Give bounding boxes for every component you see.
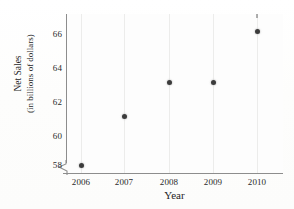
- scan-speck: [256, 14, 258, 18]
- x-tick-label-2010: 2010: [237, 177, 277, 187]
- gridline-2007: [124, 14, 125, 173]
- net-sales-scatter-chart: 66 64 62 60 58 2006 2007 2008 2009 2010 …: [0, 0, 294, 209]
- y-tick-label-58: 58: [40, 161, 62, 170]
- plot-area: [66, 14, 283, 173]
- data-point-2007: [122, 114, 127, 119]
- x-tick-label-2006: 2006: [61, 177, 101, 187]
- y-axis-line: [66, 14, 67, 163]
- y-axis-title-line1: Net Sales: [13, 9, 25, 139]
- data-point-2006: [79, 163, 84, 168]
- gridline-2010: [257, 14, 258, 173]
- x-tick-label-2009: 2009: [193, 177, 233, 187]
- y-tick-label-60: 60: [40, 132, 62, 141]
- y-tick-label-64: 64: [40, 64, 62, 73]
- data-point-2008: [167, 80, 172, 85]
- y-tick-label-group: 66 64 62 60 58: [38, 0, 62, 209]
- x-tick-label-2007: 2007: [104, 177, 144, 187]
- gridline-2006: [81, 14, 82, 173]
- data-point-2009: [211, 80, 216, 85]
- y-axis-title-line2: (in billions of dollars): [24, 9, 36, 139]
- gridline-2008: [169, 14, 170, 173]
- x-axis-line: [63, 173, 283, 174]
- x-axis-title: Year: [66, 189, 283, 201]
- data-point-2010: [255, 29, 260, 34]
- y-tick-label-62: 62: [40, 98, 62, 107]
- x-tick-label-2008: 2008: [149, 177, 189, 187]
- y-tick-label-66: 66: [40, 30, 62, 39]
- gridline-2009: [213, 14, 214, 173]
- y-axis-title: Net Sales (in billions of dollars): [13, 9, 36, 139]
